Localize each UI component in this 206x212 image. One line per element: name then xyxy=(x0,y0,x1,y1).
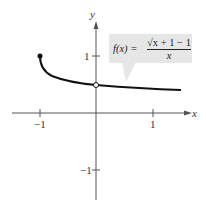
plot-area: x y −1 1 1 −1 xyxy=(0,0,206,212)
y-tick-label-pos1: 1 xyxy=(84,50,90,62)
y-tick-label-neg1: −1 xyxy=(80,164,92,176)
closed-endpoint xyxy=(38,54,43,59)
callout-pointer xyxy=(122,62,136,82)
x-axis-label: x xyxy=(191,107,197,119)
formula-numerator: √x + 1 − 1 xyxy=(147,37,191,50)
formula-fraction: √x + 1 − 1 x xyxy=(147,37,191,61)
x-tick-label-pos1: 1 xyxy=(150,118,156,130)
y-axis-arrow-icon xyxy=(94,21,99,29)
formula-denominator: x xyxy=(147,50,191,61)
open-point-hole xyxy=(94,83,99,88)
y-axis-label: y xyxy=(89,8,95,20)
x-axis-arrow-icon xyxy=(184,111,192,116)
formula-lhs: f(x) = xyxy=(113,43,137,54)
x-tick-label-neg1: −1 xyxy=(34,118,46,130)
